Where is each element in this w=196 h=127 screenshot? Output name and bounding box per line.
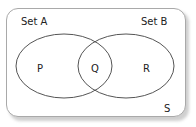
universal-set-label: S xyxy=(164,104,170,114)
set-b-label: Set B xyxy=(141,17,167,27)
region-q-label: Q xyxy=(91,64,99,74)
region-r-label: R xyxy=(143,64,150,74)
set-a-label: Set A xyxy=(21,17,47,27)
region-p-label: P xyxy=(37,64,43,74)
